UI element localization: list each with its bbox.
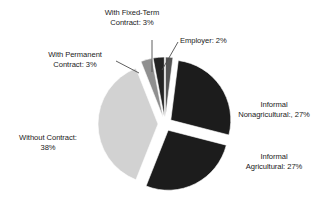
slice-label-line-1: Informal [218, 100, 330, 110]
slice-label-with-permanent-contract: With Permanent Contract: 3% [30, 50, 120, 70]
slice-label-line-2: Contract: 3% [84, 18, 180, 28]
slice-label-line-2: Agricultural: 27% [222, 162, 326, 172]
slice-label-with-fixed-term-contract: With Fixed-Term Contract: 3% [84, 8, 180, 28]
slice-label-line-1: With Permanent [30, 50, 120, 60]
pie-slice-employer [165, 57, 173, 117]
slice-label-line-1: With Fixed-Term [84, 8, 180, 18]
pie-chart-figure: With Fixed-Term Contract: 3% Employer: 2… [0, 0, 330, 219]
slice-label-line-1: Employer: 2% [180, 36, 266, 46]
slice-label-line-1: Informal [222, 152, 326, 162]
slice-label-without-contract: Without Contract: 38% [2, 133, 94, 153]
slice-label-line-2: Nonagricultural:, 27% [218, 110, 330, 120]
pie-slice-informal-agricultural [146, 130, 226, 190]
slice-label-informal-nonagricultural: Informal Nonagricultural:, 27% [218, 100, 330, 120]
pie-slice-group [98, 57, 231, 190]
slice-label-line-1: Without Contract: [2, 133, 94, 143]
pie-slice-without-contract [98, 68, 158, 180]
slice-label-line-2: 38% [2, 143, 94, 153]
slice-label-informal-agricultural: Informal Agricultural: 27% [222, 152, 326, 172]
slice-label-employer: Employer: 2% [180, 36, 266, 46]
pie-slice-informal-nonagricultural [171, 61, 231, 135]
slice-label-line-2: Contract: 3% [30, 60, 120, 70]
